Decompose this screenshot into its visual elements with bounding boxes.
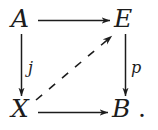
edge-x-to-e-dashed	[36, 36, 112, 100]
edge-label-p: p	[131, 60, 141, 76]
edge-label-j: j	[28, 60, 33, 76]
node-label-x: X	[11, 96, 29, 121]
trailing-period: .	[138, 96, 146, 121]
node-label-a: A	[11, 6, 29, 31]
node-label-b: B	[112, 96, 130, 121]
commutative-diagram: A E X B . j p	[0, 0, 158, 130]
node-label-e: E	[114, 6, 132, 31]
